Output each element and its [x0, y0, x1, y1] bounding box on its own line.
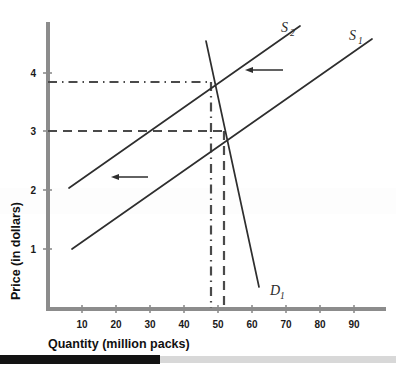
curve-label-s2-text: S [281, 20, 288, 35]
curve-label-d1-subscript: 1 [280, 291, 285, 301]
curve-label-s2-subscript: 2 [290, 28, 295, 38]
annotation-arrows-group [111, 67, 283, 180]
supply-curve-s2 [69, 26, 300, 188]
supply-demand-figure: 1 2 3 4 10 20 30 40 50 60 70 80 90 [0, 0, 396, 367]
chart-canvas: 1 2 3 4 10 20 30 40 50 60 70 80 90 [0, 0, 396, 367]
x-tick-label-40: 40 [178, 319, 190, 330]
x-tick-label-20: 20 [110, 319, 122, 330]
x-tick-label-10: 10 [76, 319, 88, 330]
y-axis-title: Price (in dollars) [9, 202, 23, 300]
y-tick-label-2: 2 [30, 185, 36, 196]
curve-label-d1: D 1 [269, 283, 285, 301]
x-tick-label-50: 50 [212, 319, 224, 330]
x-tick-label-30: 30 [144, 319, 156, 330]
curve-label-s1: S 1 [349, 28, 363, 46]
x-axis-title: Quantity (million packs) [48, 337, 190, 351]
y-tick-label-4: 4 [30, 68, 36, 79]
y-tick-label-3: 3 [30, 126, 36, 137]
shift-arrow-upper [245, 67, 283, 73]
shift-arrow-lower [111, 174, 148, 180]
x-tick-label-60: 60 [246, 319, 258, 330]
x-tick-label-80: 80 [314, 319, 326, 330]
footer-light-bar [160, 356, 396, 363]
y-tick-label-1: 1 [30, 244, 36, 255]
curve-labels-group: S 2 S 1 D 1 [269, 20, 363, 301]
x-tick-label-90: 90 [348, 319, 360, 330]
x-tick-label-70: 70 [280, 319, 292, 330]
supply-curve-s1 [72, 39, 372, 249]
curve-label-s1-subscript: 1 [358, 36, 363, 46]
curve-label-s1-text: S [349, 28, 356, 43]
curves-group [69, 26, 372, 287]
footer-dark-bar [0, 355, 160, 364]
scan-wash-band [0, 188, 396, 214]
demand-curve-d1 [206, 41, 259, 287]
curve-label-d1-text: D [269, 283, 280, 298]
